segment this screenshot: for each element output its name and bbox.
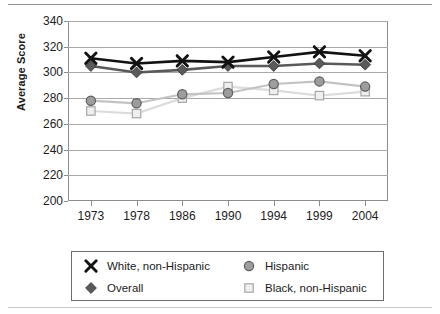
x-tick-label: 1999 [306, 209, 333, 223]
series-circle [86, 77, 369, 108]
x-tick-label: 1990 [215, 209, 242, 223]
circle-marker-icon [178, 90, 187, 99]
square-marker-icon [87, 107, 95, 115]
legend-label: Hispanic [265, 260, 309, 272]
legend-item[interactable]: White, non-Hispanic [82, 255, 210, 277]
legend-item[interactable]: Black, non-Hispanic [240, 277, 367, 299]
bottom-divider [8, 307, 432, 308]
legend-item[interactable]: Hispanic [240, 255, 309, 277]
y-tick-label: 220 [29, 168, 63, 182]
x-tick-label: 2004 [352, 209, 379, 223]
plot-wrapper: 200220240260280300320340 197319781986199… [68, 21, 388, 201]
x-tick-mark [319, 201, 320, 206]
circle-marker-icon [244, 261, 253, 270]
legend-label: White, non-Hispanic [107, 260, 210, 272]
y-tick-label: 240 [29, 143, 63, 157]
y-tick-label: 320 [29, 40, 63, 54]
y-tick-label: 340 [29, 14, 63, 28]
x-marker-icon [82, 257, 100, 275]
x-marker-icon [86, 261, 96, 271]
x-tick-label: 1978 [123, 209, 150, 223]
diamond-marker-icon [82, 279, 100, 297]
circle-marker-icon [361, 82, 370, 91]
y-tick-label: 260 [29, 117, 63, 131]
x-tick-mark [137, 201, 138, 206]
circle-marker-icon [269, 79, 278, 88]
circle-marker-icon [132, 99, 141, 108]
circle-marker-icon [223, 88, 232, 97]
square-marker-icon [240, 279, 258, 297]
x-tick-label: 1973 [77, 209, 104, 223]
circle-marker-icon [86, 96, 95, 105]
series-square [87, 82, 370, 117]
y-tick-mark [64, 201, 68, 202]
top-divider [8, 4, 432, 5]
square-marker-icon [315, 91, 323, 99]
circle-marker-icon [315, 77, 324, 86]
x-tick-mark [365, 201, 366, 206]
y-tick-label: 300 [29, 65, 63, 79]
series-layer [68, 21, 388, 201]
x-tick-mark [182, 201, 183, 206]
x-tick-label: 1986 [169, 209, 196, 223]
legend-label: Black, non-Hispanic [265, 282, 367, 294]
diamond-marker-icon [314, 58, 325, 69]
x-tick-mark [91, 201, 92, 206]
y-tick-label: 280 [29, 91, 63, 105]
x-tick-label: 1994 [260, 209, 287, 223]
legend-label: Overall [107, 282, 143, 294]
diamond-marker-icon [86, 283, 97, 294]
y-axis-title: Average Score [15, 7, 27, 137]
y-tick-label: 200 [29, 194, 63, 208]
square-marker-icon [245, 284, 253, 292]
chart-figure: Average Score 200220240260280300320340 1… [0, 0, 440, 314]
chart-legend: White, non-HispanicOverallHispanicBlack,… [71, 251, 384, 301]
x-tick-mark [274, 201, 275, 206]
legend-item[interactable]: Overall [82, 277, 143, 299]
square-marker-icon [132, 109, 140, 117]
x-tick-mark [228, 201, 229, 206]
circle-marker-icon [240, 257, 258, 275]
